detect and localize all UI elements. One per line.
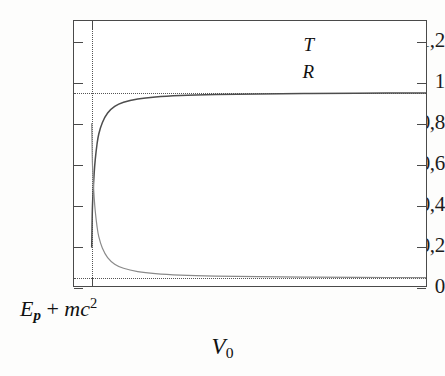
plus-operator: + bbox=[41, 296, 64, 321]
x-axis-threshold-label: Ep + mc2 bbox=[20, 295, 97, 324]
series-line-T bbox=[92, 93, 426, 247]
y-tick-mark-right bbox=[417, 288, 426, 289]
symbol-E: E bbox=[20, 296, 33, 321]
plot-frame: T R bbox=[73, 20, 427, 287]
y-tick-mark-left bbox=[74, 288, 83, 289]
subscript-0: 0 bbox=[226, 344, 234, 361]
chart-figure: 00,20,40,60,811,2 T R bbox=[0, 0, 445, 376]
symbol-mc: mc bbox=[64, 296, 90, 321]
symbol-V: V bbox=[212, 334, 226, 359]
legend-item-R: R bbox=[276, 58, 408, 85]
legend-label-R: R bbox=[302, 61, 314, 83]
exponent-2: 2 bbox=[90, 295, 97, 311]
series-line-R bbox=[92, 124, 426, 278]
legend-label-T: T bbox=[303, 34, 314, 56]
x-axis-title: V0 bbox=[0, 334, 445, 362]
chart-legend: T R bbox=[276, 31, 408, 85]
subscript-p: p bbox=[33, 307, 40, 323]
legend-item-T: T bbox=[276, 31, 408, 58]
